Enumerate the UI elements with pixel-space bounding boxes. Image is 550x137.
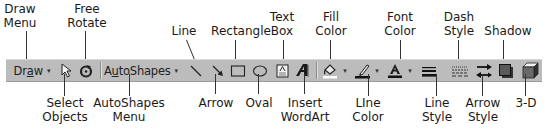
label-shadow: Shadow [484,24,531,38]
line-color-dropdown[interactable]: ▾ [373,60,381,81]
paint-bucket-icon [322,63,338,79]
fill-color-button[interactable] [319,60,341,81]
leader-draw-menu [26,31,27,61]
label-font-color: FontColor [384,10,415,38]
leader-arrow-style [482,74,483,96]
draw-menu-button[interactable]: Draw ▾ [10,60,54,81]
oval-icon [252,64,268,78]
drawing-toolbar: Draw ▾ AutoShapes ▾ [6,59,542,82]
label-line-color: LIneColor [352,96,383,124]
label-arrow-style: ArrowStyle [466,96,501,124]
draw-menu-label: Draw [14,64,43,78]
autoshapes-menu-label: AutoShapes [104,64,171,78]
text-box-icon [276,64,289,78]
font-color-icon [387,63,403,79]
label-draw-menu: DrawMenu [4,2,37,30]
chevron-down-icon: ▾ [175,67,179,75]
select-objects-button[interactable] [58,60,76,81]
wordart-icon [295,63,309,78]
arrow-button[interactable] [209,60,227,81]
leader-arrow [215,74,216,94]
toolbar-separator [100,62,101,79]
leader-line-style [436,74,437,96]
chevron-down-icon: ▾ [408,67,412,75]
label-insert-wordart: InsertWordArt [281,96,330,124]
3d-button[interactable] [520,60,540,81]
font-color-dropdown[interactable]: ▾ [406,60,414,81]
leader-autoshapes-menu [129,74,130,96]
label-line: Line [171,24,196,38]
text-box-button[interactable] [273,60,291,81]
rectangle-button[interactable] [228,60,248,81]
free-rotate-icon [79,64,93,78]
chevron-down-icon: ▾ [47,67,51,75]
leader-oval [258,74,259,94]
leader-insert-wordart [304,74,305,94]
line-button[interactable] [187,60,205,81]
arrow-style-icon [475,63,493,79]
insert-wordart-button[interactable] [292,60,312,81]
line-icon [189,64,203,78]
dash-style-button[interactable] [449,60,471,81]
label-arrow: Arrow [199,96,234,110]
label-line-style: LineStyle [422,96,452,124]
shadow-icon [498,63,514,79]
leader-3d [525,74,526,96]
line-color-button[interactable] [351,60,373,81]
oval-button[interactable] [250,60,270,81]
leader-line-color [368,74,369,96]
label-oval: Oval [245,96,272,110]
shadow-button[interactable] [496,60,516,81]
arrow-icon [211,64,225,78]
fill-color-dropdown[interactable]: ▾ [341,60,349,81]
label-select-objects: SelectObjects [42,96,87,124]
label-3d: 3-D [515,96,536,110]
chevron-down-icon: ▾ [375,67,379,75]
font-color-button[interactable] [384,60,406,81]
label-text-box: TextBox [270,10,294,38]
free-rotate-button[interactable] [77,60,95,81]
label-free-rotate: FreeRotate [67,2,106,30]
line-style-icon [421,64,437,78]
leader-select-objects [64,74,65,96]
rectangle-icon [230,64,246,78]
arrow-style-button[interactable] [474,60,494,81]
label-fill-color: FillColor [315,10,346,38]
label-autoshapes-menu: AutoShapesMenu [93,96,165,124]
chevron-down-icon: ▾ [343,67,347,75]
pointer-arrow-icon [61,63,73,78]
dash-style-icon [451,64,469,78]
label-dash-style: DashStyle [444,10,474,38]
label-rectangle: Rectangle [211,24,271,38]
toolbar-separator [316,62,317,79]
autoshapes-menu-button[interactable]: AutoShapes ▾ [105,60,177,81]
